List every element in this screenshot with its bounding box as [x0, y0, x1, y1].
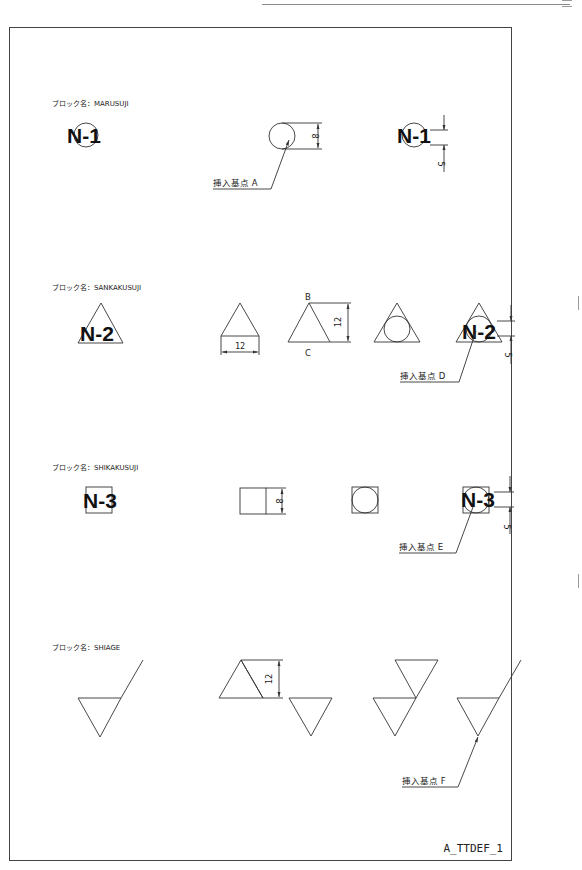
square-inscribed-circle-figure [352, 487, 378, 513]
dim-height-12: 12 [264, 674, 274, 684]
dim-offset-5: 5 [502, 524, 512, 529]
finish-mark-insert-figure: 挿入基点 F [402, 660, 521, 787]
vertex-b-label: B [305, 292, 311, 302]
stacked-inverted-triangles-figure [373, 660, 438, 736]
section-sankakusuji: ブロック名：SANKAKUSUJI N-2 12 12 B C [52, 283, 515, 382]
inverted-triangle-shape [373, 698, 416, 736]
inverted-triangle-shape [78, 698, 121, 737]
sheet-id: A_TTDEF_1 [443, 842, 503, 855]
insert-point-a: 挿入基点 A [213, 178, 258, 188]
symbol-text-n3-offset: N-3 [461, 488, 495, 511]
circle-shape [384, 316, 410, 342]
triangle-inscribed-circle-figure [374, 303, 420, 342]
section-shiage: ブロック名：SHIAGE 12 挿入基点 F [52, 643, 521, 787]
insert-point-f: 挿入基点 F [402, 776, 446, 786]
inverted-triangle-shape [289, 698, 332, 736]
symbol-n3: N-3 [83, 487, 117, 513]
symbol-text-n2: N-2 [80, 322, 114, 345]
block-label-shikakusuji: ブロック名：SHIKAKUSUJI [52, 463, 138, 472]
inverted-triangle-shape [395, 660, 438, 698]
insert-point-d: 挿入基点 D [400, 371, 446, 381]
square-shape [240, 488, 266, 514]
finish-mark-height-figure: 12 [219, 660, 332, 736]
block-label-shiage: ブロック名：SHIAGE [52, 643, 120, 652]
section-marusuji: ブロック名：MARUSUJI N-1 8 挿入基点 A N-1 5 [52, 99, 448, 189]
triangle-height-figure: 12 B C [288, 292, 351, 358]
inverted-triangle-shape [457, 698, 499, 736]
symbol-text-n1-offset: N-1 [397, 124, 431, 147]
triangle-shape [288, 303, 330, 342]
insert-point-e: 挿入基点 E [399, 542, 443, 552]
finish-mark-symbol [78, 660, 143, 737]
symbol-text-n2-offset: N-2 [462, 320, 496, 343]
symbol-n1-offset-figure: N-1 5 [397, 115, 448, 172]
dim-height-12: 12 [333, 317, 343, 327]
dim-offset-5: 5 [503, 352, 513, 357]
triangle-shape [221, 303, 259, 336]
circle-shape [352, 487, 378, 513]
triangle-width-figure: 12 [221, 303, 259, 355]
square-dimension-figure: 8 [240, 488, 286, 514]
symbol-text-n3: N-3 [83, 489, 117, 512]
dim-size-8: 8 [310, 133, 320, 138]
block-label-marusuji: ブロック名：MARUSUJI [52, 99, 129, 108]
section-shikakusuji: ブロック名：SHIKAKUSUJI N-3 8 N-3 5 [52, 463, 514, 553]
symbol-n2: N-2 [78, 303, 123, 345]
block-label-sankakusuji: ブロック名：SANKAKUSUJI [52, 283, 141, 292]
drawing-canvas: ブロック名：MARUSUJI N-1 8 挿入基点 A N-1 5 [0, 0, 582, 870]
symbol-n3-offset-figure: N-3 5 挿入基点 E [399, 476, 514, 553]
dim-size-8: 8 [274, 498, 284, 503]
dim-offset-5: 5 [436, 161, 446, 166]
symbol-n2-offset-figure: N-2 5 挿入基点 D [400, 303, 515, 382]
circle-shape [269, 123, 295, 149]
triangle-shape [374, 303, 420, 342]
triangle-shape [219, 660, 263, 698]
dim-width-12: 12 [235, 341, 245, 351]
symbol-n1: N-1 [67, 123, 101, 147]
symbol-text-n1: N-1 [67, 124, 101, 147]
vertex-c-label: C [305, 348, 311, 358]
circle-dimension-figure: 8 挿入基点 A [213, 123, 322, 189]
